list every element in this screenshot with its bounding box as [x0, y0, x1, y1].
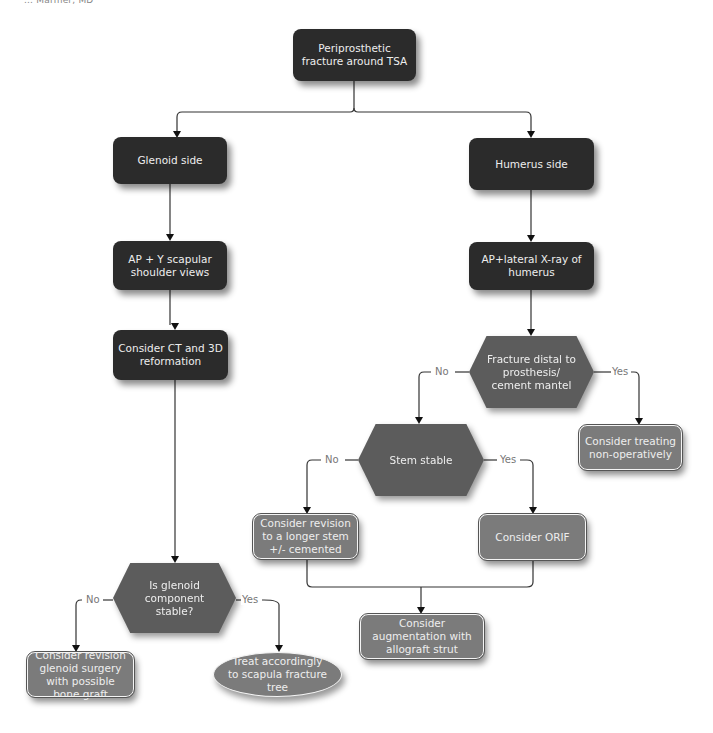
- edge-label-fracture-no: No: [434, 366, 450, 377]
- edge-label-fracture-yes: Yes: [611, 366, 629, 377]
- result-treat-scapula-label: Treat accordingly to scapula fracture tr…: [226, 655, 329, 694]
- node-glenoid-side-label: Glenoid side: [137, 154, 202, 167]
- decision-fracture-distal-label: Fracture distal to prosthesis/ cement ma…: [485, 353, 578, 392]
- decision-glenoid-stable-label: Is glenoid component stable?: [129, 579, 220, 618]
- result-revision-glenoid: Consider revision glenoid surgery with p…: [27, 652, 134, 697]
- edge-label-glenoid-no: No: [85, 594, 101, 605]
- connector-lines: [0, 0, 713, 733]
- decision-fracture-distal: Fracture distal to prosthesis/ cement ma…: [469, 336, 594, 408]
- node-humerus-side-label: Humerus side: [495, 158, 568, 171]
- node-root-label: Periprosthetic fracture around TSA: [297, 42, 412, 68]
- node-ct-3d-label: Consider CT and 3D reformation: [117, 342, 224, 368]
- result-augmentation-label: Consider augmentation with allograft str…: [365, 617, 479, 656]
- result-treat-nonoperatively-label: Consider treating non-operatively: [584, 435, 677, 461]
- result-treat-scapula: Treat accordingly to scapula fracture tr…: [213, 652, 342, 697]
- result-revision-glenoid-label: Consider revision glenoid surgery with p…: [32, 649, 129, 701]
- node-humerus-side: Humerus side: [469, 138, 594, 190]
- node-ct-3d: Consider CT and 3D reformation: [113, 330, 228, 380]
- node-glenoid-side: Glenoid side: [113, 137, 227, 184]
- decision-stem-stable: Stem stable: [358, 424, 484, 496]
- result-revision-longer-stem-label: Consider revision to a longer stem +/- c…: [258, 517, 353, 556]
- result-orif-label: Consider ORIF: [495, 531, 569, 544]
- edge-label-stem-yes: Yes: [499, 454, 517, 465]
- node-ap-y-views: AP + Y scapular shoulder views: [113, 241, 227, 290]
- edge-label-stem-no: No: [324, 454, 340, 465]
- result-revision-longer-stem: Consider revision to a longer stem +/- c…: [253, 514, 358, 559]
- decision-stem-stable-label: Stem stable: [390, 454, 453, 467]
- decision-glenoid-stable: Is glenoid component stable?: [113, 563, 236, 633]
- node-ap-y-views-label: AP + Y scapular shoulder views: [117, 253, 223, 279]
- result-orif: Consider ORIF: [479, 514, 586, 560]
- node-root: Periprosthetic fracture around TSA: [293, 29, 416, 81]
- node-ap-lateral-label: AP+lateral X-ray of humerus: [473, 253, 590, 279]
- result-treat-nonoperatively: Consider treating non-operatively: [579, 425, 682, 470]
- edge-label-glenoid-yes: Yes: [241, 594, 259, 605]
- node-ap-lateral: AP+lateral X-ray of humerus: [469, 242, 594, 290]
- result-augmentation: Consider augmentation with allograft str…: [360, 614, 484, 659]
